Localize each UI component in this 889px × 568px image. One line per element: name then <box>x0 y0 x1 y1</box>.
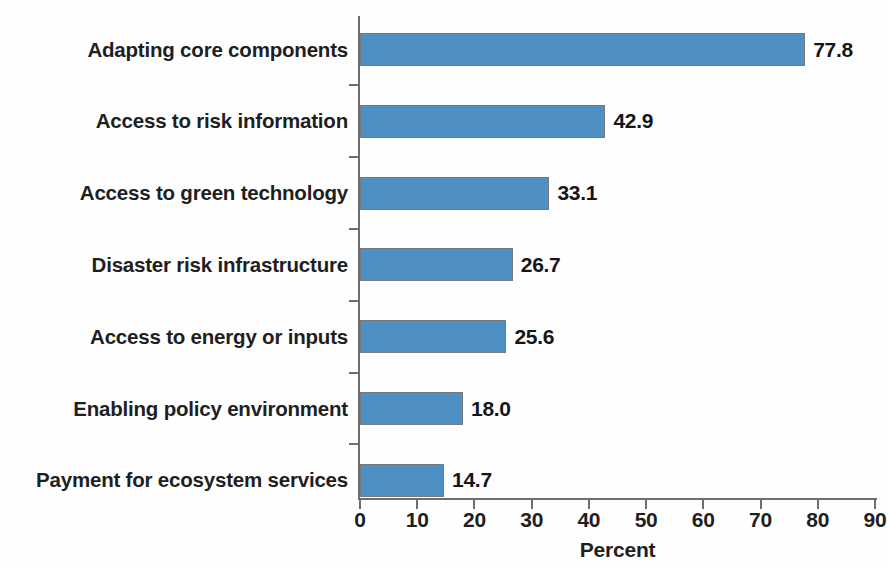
bar-value-label: 18.0 <box>471 392 511 425</box>
x-axis-tick-label: 70 <box>731 508 791 532</box>
category-label: Enabling policy environment <box>73 399 348 420</box>
x-axis-tick-label: 60 <box>673 508 733 532</box>
bar <box>360 248 513 281</box>
y-axis-tick <box>349 443 360 445</box>
x-axis-tick-label: 0 <box>330 508 390 532</box>
plot-area: 77.842.933.126.725.618.014.7 <box>360 16 875 500</box>
x-axis-tick-label: 10 <box>387 508 447 532</box>
bar <box>360 320 506 353</box>
y-axis-tick <box>349 300 360 302</box>
bar-value-label: 25.6 <box>514 320 554 353</box>
y-axis-tick <box>349 372 360 374</box>
bar-value-label: 33.1 <box>557 177 597 210</box>
category-label: Access to risk information <box>96 111 348 132</box>
bar-value-label: 42.9 <box>613 105 653 138</box>
y-axis-tick <box>349 84 360 86</box>
category-label: Adapting core components <box>87 40 348 61</box>
bar-value-label: 77.8 <box>813 33 853 66</box>
y-axis-tick <box>349 156 360 158</box>
category-label: Payment for ecosystem services <box>36 470 348 491</box>
y-axis-tick <box>349 228 360 230</box>
x-axis-tick-label: 20 <box>444 508 504 532</box>
category-label: Access to green technology <box>80 183 348 204</box>
bar <box>360 33 805 66</box>
x-axis-title: Percent <box>360 538 875 562</box>
x-axis-tick-label: 30 <box>502 508 562 532</box>
x-axis-line <box>358 498 877 500</box>
x-axis-tick-label: 90 <box>845 508 889 532</box>
bar-value-label: 14.7 <box>452 464 492 497</box>
bar <box>360 464 444 497</box>
x-axis-tick-label: 40 <box>559 508 619 532</box>
bar <box>360 392 463 425</box>
bar <box>360 105 605 138</box>
category-label: Disaster risk infrastructure <box>92 255 348 276</box>
category-label: Access to energy or inputs <box>90 327 348 348</box>
x-axis-tick-label: 50 <box>616 508 676 532</box>
x-axis-tick-label: 80 <box>788 508 848 532</box>
bar <box>360 177 549 210</box>
bar-value-label: 26.7 <box>521 248 561 281</box>
bar-chart: Adapting core componentsAccess to risk i… <box>0 0 889 568</box>
